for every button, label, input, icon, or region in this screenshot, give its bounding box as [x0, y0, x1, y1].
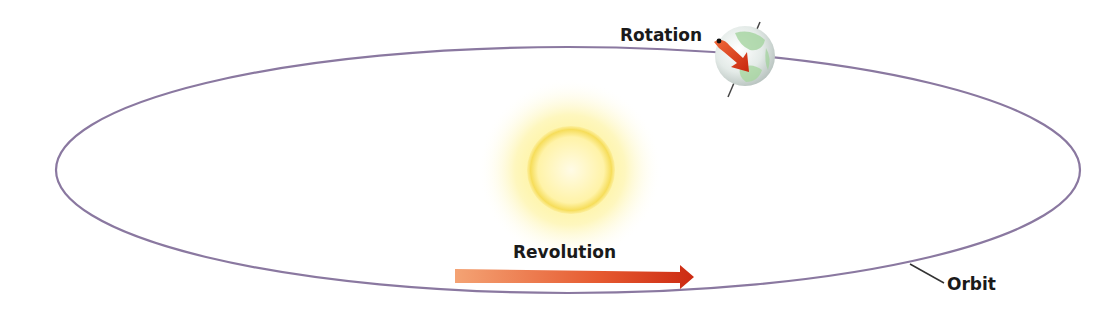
- revolution-label: Revolution: [513, 242, 616, 262]
- earth: [714, 22, 775, 97]
- sun: [478, 78, 662, 262]
- rotation-label: Rotation: [620, 25, 702, 45]
- diagram-canvas: Rotation Revolution Orbit: [0, 0, 1117, 323]
- revolution-arrow-icon: [455, 265, 694, 289]
- earth-axis-bottom: [728, 90, 731, 97]
- orbit-leader-line: [910, 264, 944, 283]
- sun-core: [527, 126, 615, 214]
- orbit-label: Orbit: [947, 274, 996, 294]
- rotation-arrow-tail: [717, 39, 722, 44]
